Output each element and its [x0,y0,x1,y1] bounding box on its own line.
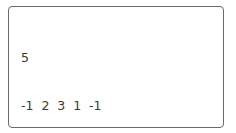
matrix-text: 5 -1 2 3 1 -1 2 -1 -1 4 -1 3 -1 -1 1 1 1… [21,18,106,133]
matrix-row-1: -1 2 3 1 -1 [21,98,106,114]
line-size: 5 [21,50,106,66]
text-box: 5 -1 2 3 1 -1 2 -1 -1 4 -1 3 -1 -1 1 1 1… [8,6,224,128]
